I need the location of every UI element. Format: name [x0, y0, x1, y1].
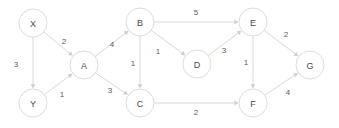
arrowhead-icon	[251, 84, 256, 88]
edge-weight-c-f: 2	[194, 108, 199, 117]
node-f[interactable]: F	[239, 89, 267, 117]
arrowhead-icon	[294, 52, 299, 56]
node-c[interactable]: C	[126, 89, 154, 117]
node-label: A	[81, 61, 87, 71]
edge-weight-x-a: 2	[62, 37, 67, 46]
edge-b-c	[138, 36, 143, 89]
graph-canvas: 3214135132124 XYABCDEFG	[0, 0, 339, 128]
edge-line	[264, 30, 296, 54]
edge-x-y	[31, 37, 36, 89]
edge-weight-b-d: 1	[156, 47, 161, 56]
arrowhead-icon	[124, 31, 129, 35]
edge-weight-e-g: 2	[284, 30, 289, 39]
edge-e-g	[264, 30, 298, 56]
arrowhead-icon	[234, 101, 238, 106]
nodes-layer: XYABCDEFG	[19, 8, 324, 117]
node-x[interactable]: X	[19, 9, 47, 37]
arrowhead-icon	[181, 51, 186, 55]
edge-line	[265, 75, 296, 96]
edge-f-g	[265, 73, 298, 95]
edge-line	[44, 75, 70, 94]
node-g[interactable]: G	[296, 51, 324, 79]
edge-weight-x-y: 3	[14, 60, 19, 69]
graph-diagram: 3214135132124 XYABCDEFG	[0, 0, 339, 128]
node-label: C	[137, 99, 144, 109]
arrowhead-icon	[123, 91, 128, 95]
node-label: X	[30, 19, 36, 29]
edge-line	[44, 32, 71, 54]
node-label: F	[250, 99, 256, 109]
edge-weight-b-e: 5	[194, 8, 199, 17]
arrowhead-icon	[31, 84, 36, 88]
node-label: G	[306, 61, 313, 71]
edge-y-a	[44, 74, 72, 95]
edge-weight-a-c: 3	[108, 86, 113, 95]
node-label: E	[250, 18, 256, 28]
arrowhead-icon	[138, 84, 143, 88]
node-label: D	[194, 60, 201, 70]
edge-weight-b-c: 1	[131, 59, 136, 68]
edge-e-f	[251, 36, 256, 89]
node-label: Y	[30, 99, 36, 109]
edge-c-f	[154, 101, 239, 106]
node-d[interactable]: D	[183, 50, 211, 78]
node-e[interactable]: E	[239, 8, 267, 36]
edge-weight-d-e: 3	[222, 46, 227, 55]
node-b[interactable]: B	[126, 8, 154, 36]
node-a[interactable]: A	[70, 51, 98, 79]
node-y[interactable]: Y	[19, 89, 47, 117]
edge-weight-a-b: 4	[110, 40, 115, 49]
arrowhead-icon	[234, 20, 238, 25]
edge-b-e	[154, 20, 239, 25]
edge-weight-e-f: 1	[244, 58, 249, 67]
edge-weight-f-g: 4	[286, 88, 291, 97]
node-label: B	[137, 18, 143, 28]
edge-weight-y-a: 1	[60, 90, 65, 99]
arrowhead-icon	[237, 31, 242, 35]
arrowhead-icon	[68, 74, 73, 78]
edge-x-a	[44, 32, 73, 56]
